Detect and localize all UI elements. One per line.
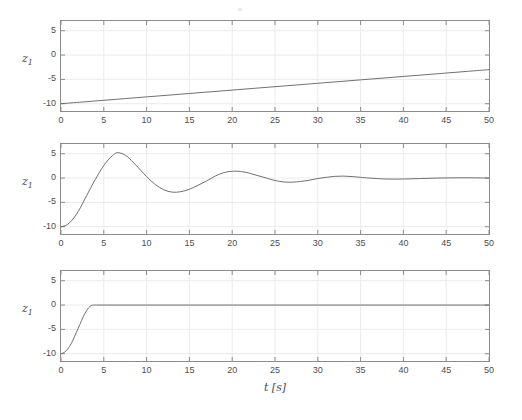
plot-axes-3	[60, 270, 490, 362]
xtick-label-2-2: 10	[135, 238, 159, 248]
ytick-label-2-2: 0	[34, 172, 56, 182]
x-axis-label-unit: [s]	[268, 381, 286, 394]
y-axis-label-subscript: 1	[28, 308, 33, 317]
ytick-label-2-1: -5	[34, 196, 56, 206]
xtick-label-1-5: 25	[263, 115, 287, 125]
y-axis-label-2: z1	[22, 175, 33, 190]
gridlines-3	[61, 271, 489, 361]
ytick-label-1-0: -10	[34, 98, 56, 108]
plot-axes-1	[60, 20, 490, 112]
figure-canvas: -10-50505101520253035404550z1-10-5050510…	[0, 0, 522, 420]
plot-area-3	[61, 271, 489, 361]
xtick-label-3-5: 25	[263, 365, 287, 375]
ytick-label-2-3: 5	[34, 148, 56, 158]
xtick-label-2-5: 25	[263, 238, 287, 248]
xtick-label-1-0: 0	[49, 115, 73, 125]
xtick-label-2-4: 20	[220, 238, 244, 248]
xtick-label-2-3: 15	[177, 238, 201, 248]
ytick-label-1-1: -5	[34, 73, 56, 83]
xtick-label-3-9: 45	[434, 365, 458, 375]
gridlines-1	[61, 21, 489, 111]
xtick-label-3-4: 20	[220, 365, 244, 375]
xtick-label-2-1: 5	[92, 238, 116, 248]
xtick-label-3-7: 35	[349, 365, 373, 375]
xtick-label-1-3: 15	[177, 115, 201, 125]
xtick-label-1-4: 20	[220, 115, 244, 125]
ytick-label-3-3: 5	[34, 275, 56, 285]
x-axis-label: t [s]	[215, 381, 335, 394]
xtick-label-1-6: 30	[306, 115, 330, 125]
ytick-label-1-2: 0	[34, 49, 56, 59]
xtick-label-2-6: 30	[306, 238, 330, 248]
y-axis-label-1: z1	[22, 52, 33, 67]
ytick-label-3-1: -5	[34, 323, 56, 333]
xtick-label-3-10: 50	[477, 365, 501, 375]
y-axis-label-3: z1	[22, 302, 33, 317]
ytick-label-1-3: 5	[34, 25, 56, 35]
xtick-label-2-7: 35	[349, 238, 373, 248]
plot-area-2	[61, 144, 489, 234]
xtick-label-1-7: 35	[349, 115, 373, 125]
xtick-label-2-9: 45	[434, 238, 458, 248]
xtick-label-2-0: 0	[49, 238, 73, 248]
xtick-label-3-8: 40	[391, 365, 415, 375]
y-axis-label-subscript: 1	[28, 181, 33, 190]
xtick-label-1-9: 45	[434, 115, 458, 125]
xtick-label-2-8: 40	[391, 238, 415, 248]
xtick-label-2-10: 50	[477, 238, 501, 248]
plot-axes-2	[60, 143, 490, 235]
xtick-label-1-2: 10	[135, 115, 159, 125]
xtick-label-3-2: 10	[135, 365, 159, 375]
xtick-label-3-0: 0	[49, 365, 73, 375]
xtick-label-1-1: 5	[92, 115, 116, 125]
y-axis-label-subscript: 1	[28, 58, 33, 67]
xtick-label-3-3: 15	[177, 365, 201, 375]
xtick-label-1-8: 40	[391, 115, 415, 125]
xtick-label-3-1: 5	[92, 365, 116, 375]
ytick-label-2-0: -10	[34, 221, 56, 231]
scan-artifact	[238, 8, 242, 11]
ytick-label-3-2: 0	[34, 299, 56, 309]
gridlines-2	[61, 144, 489, 234]
plot-area-1	[61, 21, 489, 111]
xtick-label-3-6: 30	[306, 365, 330, 375]
xtick-label-1-10: 50	[477, 115, 501, 125]
ytick-label-3-0: -10	[34, 348, 56, 358]
